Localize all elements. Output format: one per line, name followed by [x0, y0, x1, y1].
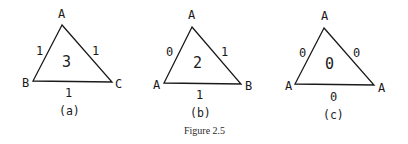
vertex-label-left: A: [285, 79, 293, 93]
vertex-label-left: B: [22, 76, 29, 90]
face-label: 2: [193, 54, 202, 72]
edge-label-right: 0: [353, 46, 360, 60]
vertex-label-right: B: [245, 79, 252, 93]
vertex-label-top: A: [321, 9, 329, 23]
sublabel: (b): [190, 106, 211, 120]
edge-label-bottom: 0: [330, 90, 337, 104]
vertex-label-left: A: [153, 78, 161, 92]
triangle-b: A A B 0 1 1 2 (b): [153, 8, 252, 120]
edge-label-left: 0: [166, 45, 173, 59]
edge-label-left: 0: [299, 46, 306, 60]
triangle-a-outline: [33, 25, 112, 82]
triangle-c-outline: [295, 28, 374, 85]
edge-label-right: 1: [221, 45, 228, 59]
edge-label-left: 1: [36, 44, 43, 58]
face-label: 3: [62, 53, 71, 71]
edge-label-right: 1: [92, 44, 99, 58]
edge-label-bottom: 1: [65, 86, 72, 100]
figure-canvas: A B C 1 1 1 3 (a) A A B 0 1 1 2 (b) A A …: [0, 0, 408, 144]
vertex-label-top: A: [58, 7, 66, 21]
sublabel: (c): [323, 108, 344, 122]
triangle-a: A B C 1 1 1 3 (a): [22, 7, 122, 118]
triangle-c: A A A 0 0 0 0 (c): [285, 9, 386, 122]
vertex-label-top: A: [188, 8, 196, 22]
triangle-b-outline: [164, 27, 241, 84]
vertex-label-right: C: [115, 77, 122, 91]
face-label: 0: [325, 55, 334, 73]
vertex-label-right: A: [378, 81, 386, 95]
sublabel: (a): [59, 104, 80, 118]
edge-label-bottom: 1: [196, 88, 203, 102]
figure-caption: Figure 2.5: [184, 125, 225, 136]
